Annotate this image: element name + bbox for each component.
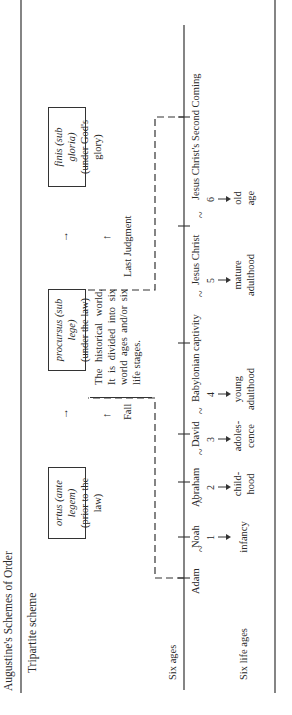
fall-label: Fall — [122, 404, 133, 420]
life-age-number: 1 — [205, 535, 216, 540]
age-abraham: Abraham — [190, 468, 201, 507]
arrow-head-icon — [226, 436, 231, 442]
tilde-icon: ~ — [194, 408, 209, 415]
fall-up-arrow: ↑ — [100, 413, 112, 419]
procursus-english: (under the law) — [78, 296, 91, 364]
age-babylonian-captivity: Babylonian captivity — [190, 314, 201, 402]
six-life-ages-label: Six life ages — [238, 628, 249, 680]
ortus-english: (prior to the law) — [78, 474, 104, 532]
arrow-head-icon — [226, 484, 231, 490]
arrow-head-icon — [226, 196, 231, 202]
arrow-ortus-to-procursus: → — [58, 408, 70, 419]
procursus-box: procursus (sub lege) (under the law) — [48, 289, 86, 371]
tilde-icon: ~ — [194, 291, 209, 298]
description-left-bar — [90, 397, 152, 398]
arrow-head-icon — [226, 277, 231, 283]
tilde-icon: ~ — [194, 212, 209, 219]
life-age-adolescence: adoles-cence — [232, 417, 257, 455]
description-line: It is divided into six — [106, 289, 119, 385]
age-adam: Adam — [190, 568, 201, 594]
ortus-latin: ortus (ante legem) — [52, 474, 78, 532]
arrow-head-icon — [226, 391, 231, 397]
historical-world-description: The historical world. It is divided into… — [93, 289, 143, 385]
life-age-number: 4 — [205, 392, 216, 397]
tripartite-label: Tripartite scheme — [26, 593, 38, 673]
life-age-number: 5 — [205, 278, 216, 283]
diagram-stage: Augustine's Schemes of Order Tripartite … — [0, 0, 292, 715]
age-noah: Noah — [190, 525, 201, 548]
life-age-childhood: child-hood — [232, 470, 257, 498]
age-jesus-christ: Jesus Christ — [190, 235, 201, 285]
procursus-latin: procursus (sub lege) — [52, 296, 78, 364]
diagram-lines — [0, 0, 292, 715]
figure-title: Augustine's Schemes of Order — [2, 551, 14, 691]
ortus-box: ortus (ante legem) (prior to the law) — [48, 467, 86, 539]
description-line: world ages and/or six — [118, 289, 131, 385]
life-age-number: 2 — [205, 485, 216, 490]
age-second-coming: Jesus Christ's Second Coming — [190, 74, 201, 200]
life-age-old-age: old age — [232, 186, 257, 210]
life-age-number: 3 — [205, 437, 216, 442]
arrow-head-icon — [226, 534, 231, 540]
description-line: The historical world. — [93, 289, 106, 385]
arrow-procursus-to-finis: → — [58, 231, 70, 242]
description-line: life stages. — [131, 289, 144, 385]
age-david: David — [190, 421, 201, 447]
life-age-mature-adulthood: mature adulthood — [232, 249, 257, 301]
tilde-icon: ~ — [194, 449, 209, 456]
life-age-arrows — [218, 196, 231, 540]
six-ages-label: Six ages — [167, 645, 178, 680]
life-age-young-adulthood: young adulthood — [232, 364, 257, 414]
finis-box: finis (sub gloria) (under God's glory) — [48, 107, 86, 187]
finis-english: (under God's glory) — [78, 114, 104, 180]
last-judgment-up-arrow: ↑ — [100, 235, 112, 241]
last-judgment-label: Last Judgment — [122, 215, 133, 277]
life-age-number: 6 — [205, 197, 216, 202]
life-age-infancy: infancy — [238, 507, 251, 567]
finis-latin: finis (sub gloria) — [52, 114, 78, 180]
